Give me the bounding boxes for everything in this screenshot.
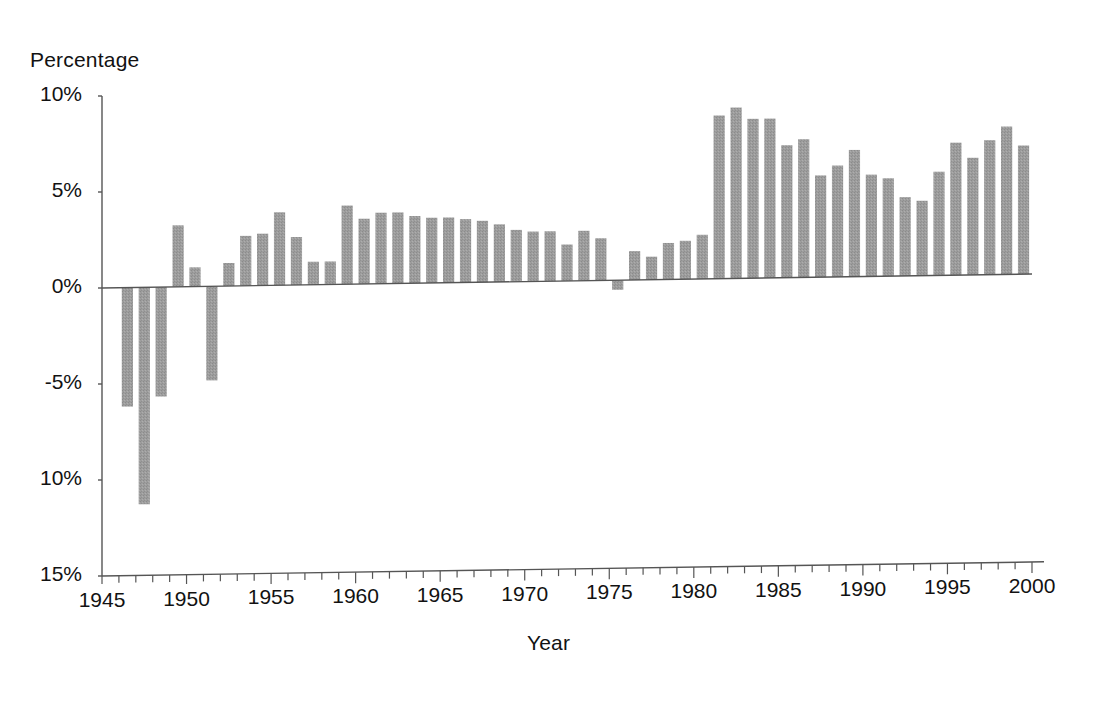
bar [967,158,978,275]
x-tick-label: 1960 [321,584,391,608]
x-tick-label: 1970 [490,582,560,606]
bar [595,238,606,280]
bar [156,287,167,396]
x-tick-label: 1955 [236,585,306,609]
y-tick-label: 5% [8,178,82,202]
bar [612,280,623,290]
bar [122,288,133,407]
bar [984,140,995,274]
bar [714,115,725,278]
bar [764,119,775,278]
bars-group [122,108,1029,505]
plot-area [98,90,1088,584]
y-tick-label: 0% [8,274,82,298]
bar [426,218,437,283]
bar [916,201,927,276]
x-axis-title: Year [0,631,1097,655]
bar [933,172,944,276]
bar [849,150,860,277]
x-tick-label: 1965 [405,583,475,607]
axes-group [98,96,1044,584]
y-tick-label: 15% [8,562,82,586]
bar [257,234,268,286]
bar [460,219,471,282]
bar [730,108,741,279]
bar [950,143,961,275]
plot-svg [98,90,1088,584]
bar [342,206,353,285]
bar [189,267,200,286]
bar [358,219,369,284]
bar [629,251,640,280]
bar [544,231,555,281]
bar [240,236,251,286]
bar [325,261,336,284]
bar [1001,127,1012,275]
bar [747,119,758,278]
bar [511,230,522,282]
bar [477,221,488,282]
bar [274,212,285,285]
bar [680,241,691,279]
bar [443,217,454,282]
bar [663,243,674,279]
y-tick-label: -5% [8,370,82,394]
bar [815,175,826,277]
bar [172,225,183,286]
y-axis-title: Percentage [30,48,139,72]
bar [646,257,657,280]
bar [308,262,319,285]
bar [375,213,386,284]
bar [291,237,302,285]
x-axis-spine [102,562,1044,576]
bar [781,145,792,277]
bar [139,287,150,504]
bar [528,232,539,282]
bar [392,212,403,283]
bar [798,139,809,277]
x-tick-label: 1945 [67,588,137,612]
bar [409,216,420,283]
bar [223,263,234,286]
y-tick-label: 10% [8,82,82,106]
bar [206,286,217,380]
bar [883,178,894,276]
bar-chart-figure: Percentage Year 10%5%0%-5%10%15% 1945195… [0,0,1097,708]
y-tick-label: 10% [8,466,82,490]
bar [1018,145,1029,274]
bar [494,224,505,282]
bar [561,244,572,280]
x-tick-label: 1950 [152,587,222,611]
bar [832,166,843,277]
bar [866,175,877,277]
bar [578,231,589,281]
bar [697,235,708,279]
bar [900,197,911,276]
